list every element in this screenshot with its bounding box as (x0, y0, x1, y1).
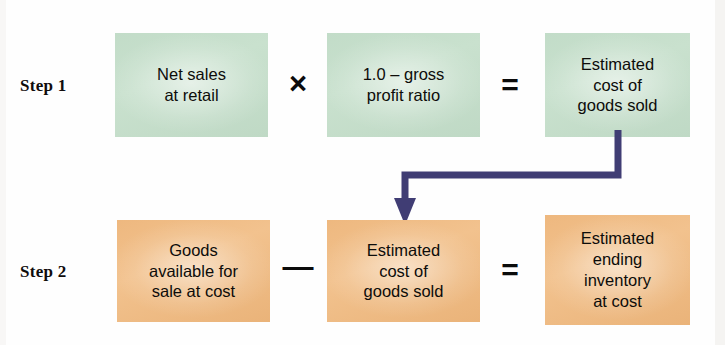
box-goods-available-line-1: Goods (149, 240, 238, 261)
step-1-label: Step 1 (20, 76, 67, 96)
box-gross-profit-ratio-line-2: profit ratio (363, 85, 445, 106)
box-est-cogs-1-line-2: cost of (578, 75, 658, 96)
box-gross-profit-ratio: 1.0 – gross profit ratio (327, 33, 480, 137)
box-est-ending-inv-line-4: at cost (581, 291, 654, 312)
box-goods-available-line-3: sale at cost (149, 281, 238, 302)
box-estimated-cost-of-goods-sold-step-2: Estimated cost of goods sold (327, 220, 480, 322)
box-est-cogs-2-line-2: cost of (364, 261, 444, 282)
box-est-cogs-1-line-1: Estimated (578, 54, 658, 75)
box-est-cogs-2-line-1: Estimated (364, 240, 444, 261)
box-net-sales-line-2: at retail (157, 85, 226, 106)
step-2-label: Step 2 (20, 262, 67, 282)
equals-operator-step-1: = (492, 70, 528, 100)
box-net-sales-at-retail: Net sales at retail (115, 33, 268, 137)
equals-operator-step-2: = (492, 255, 528, 285)
multiplication-operator: × (281, 68, 315, 99)
box-est-ending-inv-line-3: inventory (581, 270, 654, 291)
box-estimated-ending-inventory-at-cost: Estimated ending inventory at cost (545, 215, 690, 325)
gross-profit-method-diagram: Step 1 Net sales at retail × 1.0 – gross… (0, 0, 725, 345)
box-gross-profit-ratio-line-1: 1.0 – gross (363, 64, 445, 85)
page-edge-artifact-right (715, 0, 725, 345)
box-goods-available-for-sale-at-cost: Goods available for sale at cost (117, 220, 270, 322)
box-net-sales-line-1: Net sales (157, 64, 226, 85)
box-goods-available-line-2: available for (149, 261, 238, 282)
subtraction-operator: — (281, 251, 315, 282)
box-est-ending-inv-line-2: ending (581, 249, 654, 270)
box-est-cogs-2-line-3: goods sold (364, 281, 444, 302)
page-edge-artifact-left (0, 0, 6, 345)
box-est-cogs-1-line-3: goods sold (578, 95, 658, 116)
box-est-ending-inv-line-1: Estimated (581, 228, 654, 249)
box-estimated-cost-of-goods-sold-step-1: Estimated cost of goods sold (545, 33, 690, 137)
